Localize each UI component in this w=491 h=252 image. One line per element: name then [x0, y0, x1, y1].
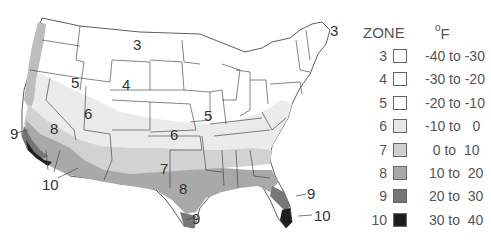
- legend-swatch: [393, 189, 407, 203]
- zone-label: 9: [10, 125, 18, 142]
- zone-label: 9: [307, 185, 315, 202]
- legend-swatch: [393, 119, 407, 133]
- us-hardiness-map: 3 3 4 5 5 6 6 7 8 8 9 9 9 10 10: [0, 0, 360, 252]
- legend-row: 5-20 to -10: [363, 93, 491, 116]
- legend-zone-heading: ZONE: [363, 24, 405, 41]
- legend: ZONE oF 3-40 to -30 4-30 to -20 5-20 to …: [363, 22, 491, 233]
- legend-row: 4-30 to -20: [363, 69, 491, 92]
- zone-label: 3: [133, 36, 141, 53]
- zone-label: 5: [71, 74, 79, 91]
- legend-swatch: [393, 49, 407, 63]
- zone-label: 7: [160, 160, 168, 177]
- legend-swatch: [393, 143, 407, 157]
- legend-row: 6-10 to 0: [363, 116, 491, 139]
- legend-row: 9 20 to 30: [363, 186, 491, 209]
- legend-row: 7 0 to 10: [363, 140, 491, 163]
- legend-unit-heading: oF: [435, 24, 450, 42]
- zone-label: 6: [170, 126, 178, 143]
- legend-row: 10 30 to 40: [363, 210, 491, 233]
- legend-swatch: [393, 213, 407, 227]
- legend-swatch: [393, 96, 407, 110]
- legend-swatch: [393, 72, 407, 86]
- zone-label: 9: [192, 210, 200, 227]
- zone-label: 6: [84, 105, 92, 122]
- zone-label: 5: [204, 107, 212, 124]
- zone-label: 8: [179, 180, 187, 197]
- zone-label: 10: [42, 176, 59, 193]
- legend-row: 3-40 to -30: [363, 46, 491, 69]
- legend-row: 8 10 to 20: [363, 163, 491, 186]
- zone-label: 10: [314, 207, 331, 224]
- zone-label: 4: [122, 76, 130, 93]
- zone-label: 8: [50, 120, 58, 137]
- legend-swatch: [393, 166, 407, 180]
- zone-label: 3: [330, 22, 338, 39]
- legend-header: ZONE oF: [363, 22, 491, 46]
